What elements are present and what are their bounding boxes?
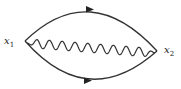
vertex-x2-subscript: 2	[170, 50, 174, 58]
feynman-diagram: x1 x2	[0, 0, 181, 89]
vertex-x1-subscript: 1	[10, 41, 14, 49]
upper-fermion-line	[25, 12, 157, 51]
vertex-label-x1: x1	[4, 35, 14, 49]
diagram-canvas	[0, 0, 181, 89]
photon-wavy-line	[27, 40, 155, 57]
vertex-label-x2: x2	[164, 44, 174, 58]
